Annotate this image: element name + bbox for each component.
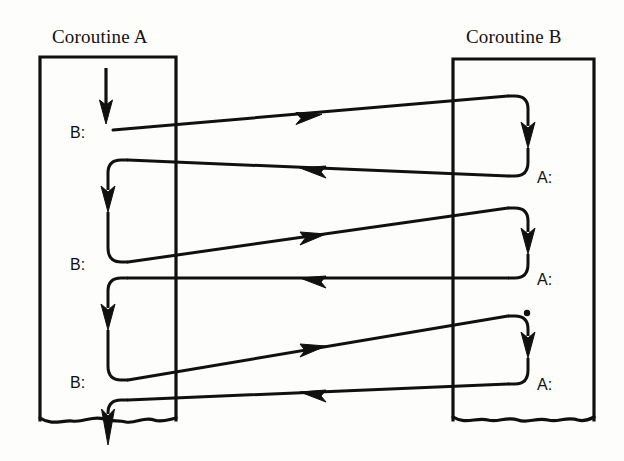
coroutine-b-box: [453, 59, 594, 420]
transfer-a-to-b-2: [128, 208, 535, 278]
coroutine-b-torn-edge: [453, 417, 594, 421]
coroutine-a-resume-label-2: B:: [70, 256, 85, 274]
coroutine-b-resume-label-2: A:: [537, 271, 552, 289]
exit-arrow-down: [102, 409, 115, 445]
transfer-b-to-a-2: [101, 276, 508, 380]
entry-arrow-down: [100, 68, 113, 124]
ellipsis-dot: [524, 310, 530, 316]
coroutine-a-resume-label-3: B:: [70, 374, 85, 392]
coroutine-b-resume-label-1: A:: [537, 169, 552, 187]
transfer-b-to-a-3: [108, 384, 508, 414]
transfer-a-to-b-3: [128, 316, 535, 384]
diagram-canvas: Coroutine A Coroutine B B top (y=96) ===…: [0, 0, 624, 461]
coroutine-b-resume-label-3: A:: [537, 376, 552, 394]
transfer-b-to-a-1: [101, 160, 508, 262]
coroutine-flow-diagram: B top (y=96) ===========================…: [0, 0, 624, 461]
coroutine-a-resume-label-1: B:: [70, 124, 85, 142]
